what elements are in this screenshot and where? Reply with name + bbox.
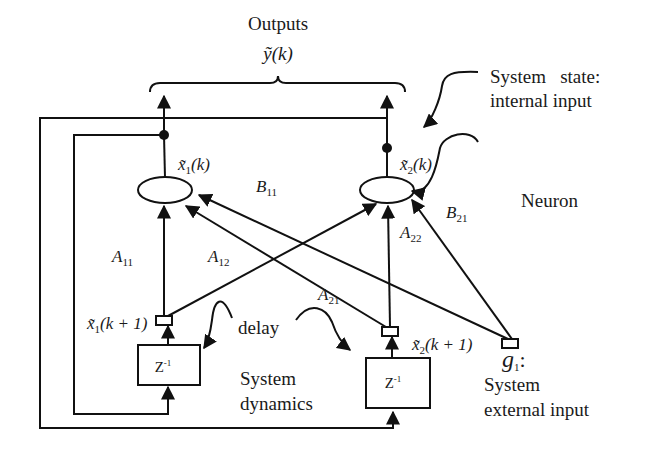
weight-B21: B21 [446,203,467,224]
neuron1-state-label: x̃1(k) [177,155,210,176]
system-dynamics-label-2: dynamics [240,393,313,414]
feedback-loop-2 [40,118,393,428]
external-input-label-2: external input [484,399,590,420]
delay-block-1-label: Z-1 [155,358,172,375]
system-state-pointer [424,72,478,127]
external-symbol: g1: [502,346,526,373]
weight-A12: A12 [207,247,229,268]
internal-input-label: internal input [490,90,593,111]
edge-A12 [168,204,376,316]
neuron-label: Neuron [521,190,578,211]
outputs-title: Outputs [248,13,308,34]
delay-label: delay [238,317,280,338]
delay-pointer-2 [296,308,350,350]
delay-block-2-label: Z-1 [385,374,402,391]
weight-B11: B11 [256,177,277,198]
next-state-1-label: x̃1(k + 1) [86,314,148,335]
edge-A21 [186,206,386,327]
outputs-brace [150,76,405,92]
neuron2-state-label: x̃2(k) [399,155,432,176]
weight-A22: A22 [399,223,421,244]
neuron1-output-line [164,135,165,178]
next-state-2-label: x̃2(k + 1) [411,335,473,356]
neuron-2 [360,177,414,203]
external-input-label-1: System [484,374,540,395]
system-dynamics-label-1: System [240,368,296,389]
state2-node [382,327,398,336]
weight-A21: A21 [317,285,339,306]
edge-A22 [388,206,390,327]
state1-node [156,316,172,325]
delay-pointer-1 [204,302,232,348]
recurrent-network-diagram: Outputs ỹ(k) x̃1(k) x̃2(k) A11 A12 A21 A… [0,0,670,455]
neuron-1 [138,177,192,203]
system-state-label: System state: [490,66,600,87]
weight-A11: A11 [111,247,133,268]
outputs-symbol: ỹ(k) [261,43,293,65]
